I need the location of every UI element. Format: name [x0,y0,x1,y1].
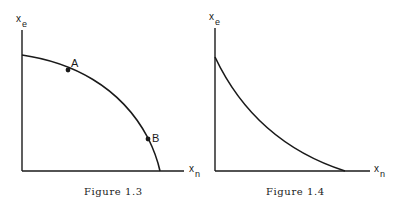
point-b-dot [146,137,151,142]
point-b-label: B [152,132,159,144]
y-axis-label: x [209,11,214,22]
point-a-label: A [71,57,79,69]
y-axis-subscript: e [22,19,27,29]
figure-1-4: x e x n Figure 1.4 [209,11,385,197]
figure-caption: Figure 1.3 [84,186,143,197]
x-axis-subscript: n [380,169,385,179]
figure-caption: Figure 1.4 [266,186,325,197]
x-axis-subscript: n [195,169,200,179]
y-axis-label: x [16,13,21,24]
convex-curve [215,57,345,171]
figure-canvas: A B x e x n Figure 1.3 x e x n Figure 1.… [0,0,407,206]
point-a-dot [66,68,71,73]
y-axis-subscript: e [215,17,220,27]
x-axis-label: x [189,163,194,174]
x-axis-label: x [374,163,379,174]
figure-1-3: A B x e x n Figure 1.3 [16,13,200,197]
production-possibility-curve [22,55,160,171]
